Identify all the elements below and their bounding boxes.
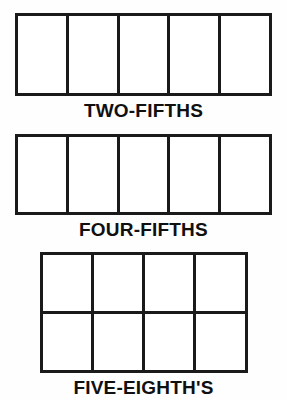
fraction-cell <box>18 16 69 96</box>
fraction-bar-four-fifths <box>15 134 272 215</box>
fraction-cell <box>43 314 94 373</box>
fraction-cell <box>120 137 171 215</box>
fraction-cell <box>69 137 120 215</box>
fraction-cell <box>145 314 196 373</box>
fraction-cell <box>120 16 171 96</box>
figure-caption: FIVE-EIGHTH'S <box>0 376 287 399</box>
fraction-cell <box>170 16 221 96</box>
fraction-cell <box>221 16 272 96</box>
fraction-cell <box>94 314 145 373</box>
fraction-cell <box>18 137 69 215</box>
figure-two-fifths: TWO-FIFTHS <box>0 13 287 123</box>
fraction-cell <box>43 255 94 314</box>
fraction-cell <box>221 137 272 215</box>
fraction-grid-five-eighths <box>40 252 248 373</box>
fraction-cell <box>94 255 145 314</box>
worksheet-canvas: TWO-FIFTHS FOUR-FIFTHS FIVE-EIGHTH'S <box>0 0 287 399</box>
fraction-cell <box>196 255 247 314</box>
fraction-bar-two-fifths <box>15 13 272 96</box>
figure-caption: FOUR-FIFTHS <box>0 218 287 242</box>
figure-five-eighths: FIVE-EIGHTH'S <box>0 252 287 399</box>
fraction-cell <box>145 255 196 314</box>
fraction-cell <box>69 16 120 96</box>
figure-four-fifths: FOUR-FIFTHS <box>0 134 287 242</box>
figure-caption: TWO-FIFTHS <box>0 99 287 123</box>
fraction-cell <box>170 137 221 215</box>
fraction-cell <box>196 314 247 373</box>
